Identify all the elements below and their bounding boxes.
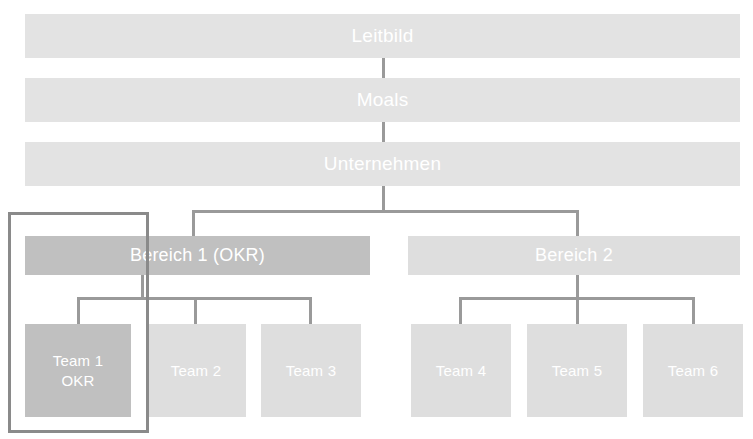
- node-team-2[interactable]: Team 2: [146, 324, 246, 417]
- node-moals[interactable]: Moals: [25, 78, 740, 122]
- connector-unternehmen-trunk: [382, 186, 385, 212]
- connector-moals-to-unternehmen: [382, 122, 385, 142]
- node-bereich-1-label: Bereich 1 (OKR): [130, 245, 265, 266]
- node-moals-label: Moals: [357, 89, 409, 111]
- node-bereich-1[interactable]: Bereich 1 (OKR): [25, 236, 370, 275]
- node-bereich-2-label: Bereich 2: [535, 245, 613, 266]
- connector-bus-to-team-3: [309, 297, 312, 325]
- node-team-6-label-line1: Team 6: [668, 362, 718, 379]
- node-leitbild-label: Leitbild: [352, 25, 414, 47]
- node-team-6[interactable]: Team 6: [643, 324, 743, 417]
- connector-unternehmen-bus: [192, 210, 579, 213]
- node-team-2-label-line1: Team 2: [171, 362, 221, 379]
- node-team-5[interactable]: Team 5: [527, 324, 627, 417]
- connector-bus-to-team-4: [459, 297, 462, 325]
- node-team-1-label-line1: Team 1: [53, 352, 103, 369]
- node-bereich-2[interactable]: Bereich 2: [408, 236, 740, 275]
- node-unternehmen[interactable]: Unternehmen: [25, 142, 740, 186]
- connector-bus-to-bereich-2: [576, 210, 579, 238]
- connector-bus-to-team-1: [77, 297, 80, 325]
- connector-bus-to-team-6: [692, 297, 695, 325]
- connector-bus-to-bereich-1: [192, 210, 195, 238]
- connector-bereich-1-trunk: [141, 275, 144, 299]
- connector-bus-to-team-5: [576, 297, 579, 325]
- node-team-1-label-line2: OKR: [61, 372, 94, 389]
- node-team-5-label-line1: Team 5: [552, 362, 602, 379]
- node-team-4[interactable]: Team 4: [411, 324, 511, 417]
- node-team-3[interactable]: Team 3: [261, 324, 361, 417]
- node-team-4-label-line1: Team 4: [436, 362, 486, 379]
- diagram-canvas: Leitbild Moals Unternehmen Bereich 1 (OK…: [0, 0, 753, 439]
- connector-bus-to-team-2: [194, 297, 197, 325]
- connector-leitbild-to-moals: [382, 58, 385, 78]
- node-leitbild[interactable]: Leitbild: [25, 14, 740, 58]
- node-unternehmen-label: Unternehmen: [324, 153, 441, 175]
- connector-bereich-2-trunk: [576, 275, 579, 299]
- node-team-1[interactable]: Team 1 OKR: [25, 324, 131, 417]
- node-team-3-label-line1: Team 3: [286, 362, 336, 379]
